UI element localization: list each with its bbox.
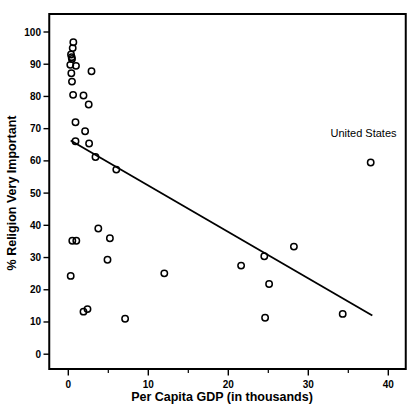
data-point xyxy=(73,238,79,244)
x-tick-label: 30 xyxy=(303,379,315,390)
data-point xyxy=(72,119,78,125)
data-point xyxy=(88,68,94,74)
scatter-plot: 0102030405060708090100010203040 Per Capi… xyxy=(0,0,416,415)
x-tick-label: 20 xyxy=(223,379,235,390)
tick-labels: 0102030405060708090100010203040 xyxy=(24,27,394,391)
data-point xyxy=(104,257,110,263)
x-tick-label: 10 xyxy=(143,379,155,390)
data-point xyxy=(69,78,75,84)
y-tick-label: 50 xyxy=(30,188,42,199)
x-axis-title: Per Capita GDP (in thousands) xyxy=(131,390,313,404)
data-point xyxy=(70,92,76,98)
data-point xyxy=(80,92,86,98)
x-tick-label: 0 xyxy=(66,379,72,390)
y-tick-label: 10 xyxy=(30,316,42,327)
data-point xyxy=(238,262,244,268)
data-point xyxy=(262,315,268,321)
y-tick-label: 20 xyxy=(30,284,42,295)
y-tick-label: 40 xyxy=(30,220,42,231)
plot-frame-rect xyxy=(49,14,406,369)
united-states-label: United States xyxy=(330,127,397,139)
data-point xyxy=(161,270,167,276)
plot-frame xyxy=(49,14,406,369)
data-point xyxy=(68,70,74,76)
data-point xyxy=(107,235,113,241)
data-point xyxy=(368,159,374,165)
y-axis-title: % Religion Very Important xyxy=(5,115,19,271)
data-point xyxy=(68,273,74,279)
data-point xyxy=(261,253,267,259)
axis-ticks xyxy=(44,32,389,376)
y-tick-label: 70 xyxy=(30,123,42,134)
y-tick-label: 100 xyxy=(24,27,41,38)
data-point xyxy=(340,311,346,317)
y-tick-label: 80 xyxy=(30,91,42,102)
data-point xyxy=(95,225,101,231)
x-tick-label: 40 xyxy=(383,379,395,390)
y-tick-label: 0 xyxy=(35,349,41,360)
y-tick-label: 30 xyxy=(30,252,42,263)
data-point xyxy=(86,101,92,107)
data-point xyxy=(86,140,92,146)
y-tick-label: 60 xyxy=(30,155,42,166)
scatter-figure: 0102030405060708090100010203040 Per Capi… xyxy=(0,0,416,415)
data-point xyxy=(122,316,128,322)
data-points xyxy=(67,39,374,322)
data-point xyxy=(82,128,88,134)
y-tick-label: 90 xyxy=(30,59,42,70)
data-point xyxy=(291,243,297,249)
data-point xyxy=(266,281,272,287)
